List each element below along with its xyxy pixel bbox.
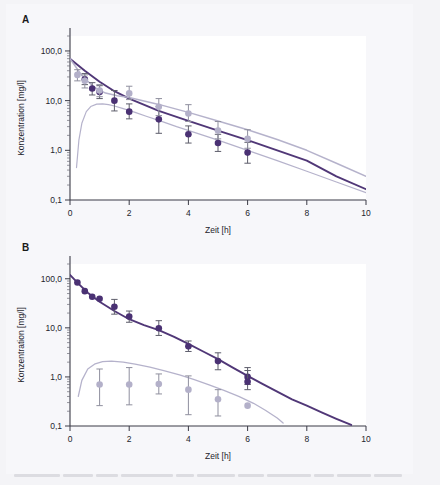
chart-body: 0,11,010,0100,00246810Zeit [h]Konzentrat… bbox=[16, 28, 371, 235]
x-tick-label: 4 bbox=[186, 208, 191, 218]
x-tick-label: 10 bbox=[361, 208, 371, 218]
data-point-marker bbox=[89, 293, 96, 300]
x-tick-label: 6 bbox=[245, 434, 250, 444]
panel-b: B 0,11,010,0100,00246810Zeit [h]Konzentr… bbox=[8, 242, 408, 470]
data-point-marker bbox=[74, 72, 81, 79]
data-point-marker bbox=[89, 85, 96, 92]
data-point-marker bbox=[126, 90, 133, 97]
data-point-marker bbox=[126, 313, 133, 320]
data-point-marker bbox=[215, 127, 222, 134]
data-point-marker bbox=[244, 378, 251, 385]
data-point-marker bbox=[244, 136, 251, 143]
data-point-marker bbox=[126, 381, 133, 388]
y-tick-label: 10,0 bbox=[45, 96, 62, 106]
data-point-marker bbox=[111, 303, 118, 310]
x-axis-title: Zeit [h] bbox=[205, 451, 231, 461]
data-point-marker bbox=[185, 110, 192, 117]
data-point-marker bbox=[244, 149, 251, 156]
panel-b-chart: 0,11,010,0100,00246810Zeit [h]Konzentrat… bbox=[8, 242, 408, 470]
data-point-marker bbox=[74, 279, 81, 286]
data-point-marker bbox=[215, 358, 222, 365]
x-tick-label: 6 bbox=[245, 208, 250, 218]
data-point-marker bbox=[244, 402, 251, 409]
data-point-marker bbox=[126, 108, 133, 115]
panel-a-letter: A bbox=[22, 14, 30, 25]
panel-a-chart: 0,11,010,0100,00246810Zeit [h]Konzentrat… bbox=[8, 14, 408, 244]
data-point-marker bbox=[96, 296, 103, 303]
y-tick-label: 1,0 bbox=[50, 372, 62, 382]
x-tick-label: 2 bbox=[127, 208, 132, 218]
data-point-marker bbox=[185, 343, 192, 350]
x-tick-label: 0 bbox=[68, 434, 73, 444]
data-point-marker bbox=[156, 325, 163, 332]
x-tick-label: 0 bbox=[68, 208, 73, 218]
y-axis-title: Konzentration [mg/l] bbox=[16, 80, 26, 156]
data-point-marker bbox=[185, 386, 192, 393]
y-tick-label: 100,0 bbox=[41, 46, 63, 56]
data-point-marker bbox=[156, 116, 163, 123]
x-tick-label: 4 bbox=[186, 434, 191, 444]
plot-area-background bbox=[70, 36, 366, 200]
y-tick-label: 100,0 bbox=[41, 274, 63, 284]
x-tick-label: 8 bbox=[304, 208, 309, 218]
x-tick-label: 8 bbox=[304, 434, 309, 444]
x-tick-label: 2 bbox=[127, 434, 132, 444]
y-tick-label: 1,0 bbox=[50, 145, 62, 155]
y-axis-title: Konzentration [mg/l] bbox=[16, 307, 26, 383]
data-point-marker bbox=[156, 381, 163, 388]
figure-caption-faded bbox=[14, 470, 409, 483]
figure-page: A 0,11,010,0100,00246810Zeit [h]Konzentr… bbox=[0, 0, 440, 485]
data-point-marker bbox=[82, 78, 89, 85]
chart-body: 0,11,010,0100,00246810Zeit [h]Konzentrat… bbox=[16, 256, 371, 461]
y-tick-label: 0,1 bbox=[50, 421, 62, 431]
y-tick-label: 0,1 bbox=[50, 195, 62, 205]
data-point-marker bbox=[82, 288, 89, 295]
data-point-marker bbox=[185, 131, 192, 138]
data-point-marker bbox=[215, 396, 222, 403]
data-point-marker bbox=[96, 87, 103, 94]
y-tick-label: 10,0 bbox=[45, 323, 62, 333]
panel-b-letter: B bbox=[22, 242, 30, 253]
x-axis-title: Zeit [h] bbox=[205, 225, 231, 235]
x-tick-label: 10 bbox=[361, 434, 371, 444]
data-point-marker bbox=[96, 381, 103, 388]
panel-a: A 0,11,010,0100,00246810Zeit [h]Konzentr… bbox=[8, 14, 408, 244]
data-point-marker bbox=[156, 104, 163, 111]
data-point-marker bbox=[111, 97, 118, 104]
data-point-marker bbox=[215, 140, 222, 147]
